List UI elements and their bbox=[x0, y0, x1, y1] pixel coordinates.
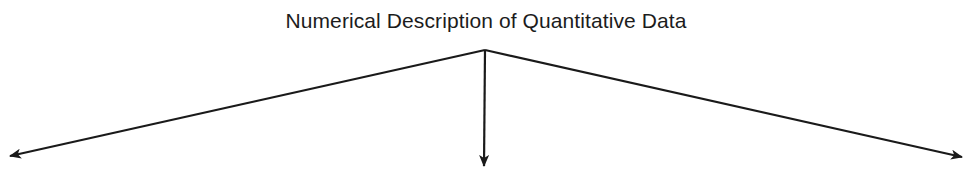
branch-arrows bbox=[0, 0, 972, 173]
left-arrow bbox=[10, 50, 485, 156]
right-arrow bbox=[485, 50, 962, 157]
center-arrow bbox=[484, 50, 485, 166]
